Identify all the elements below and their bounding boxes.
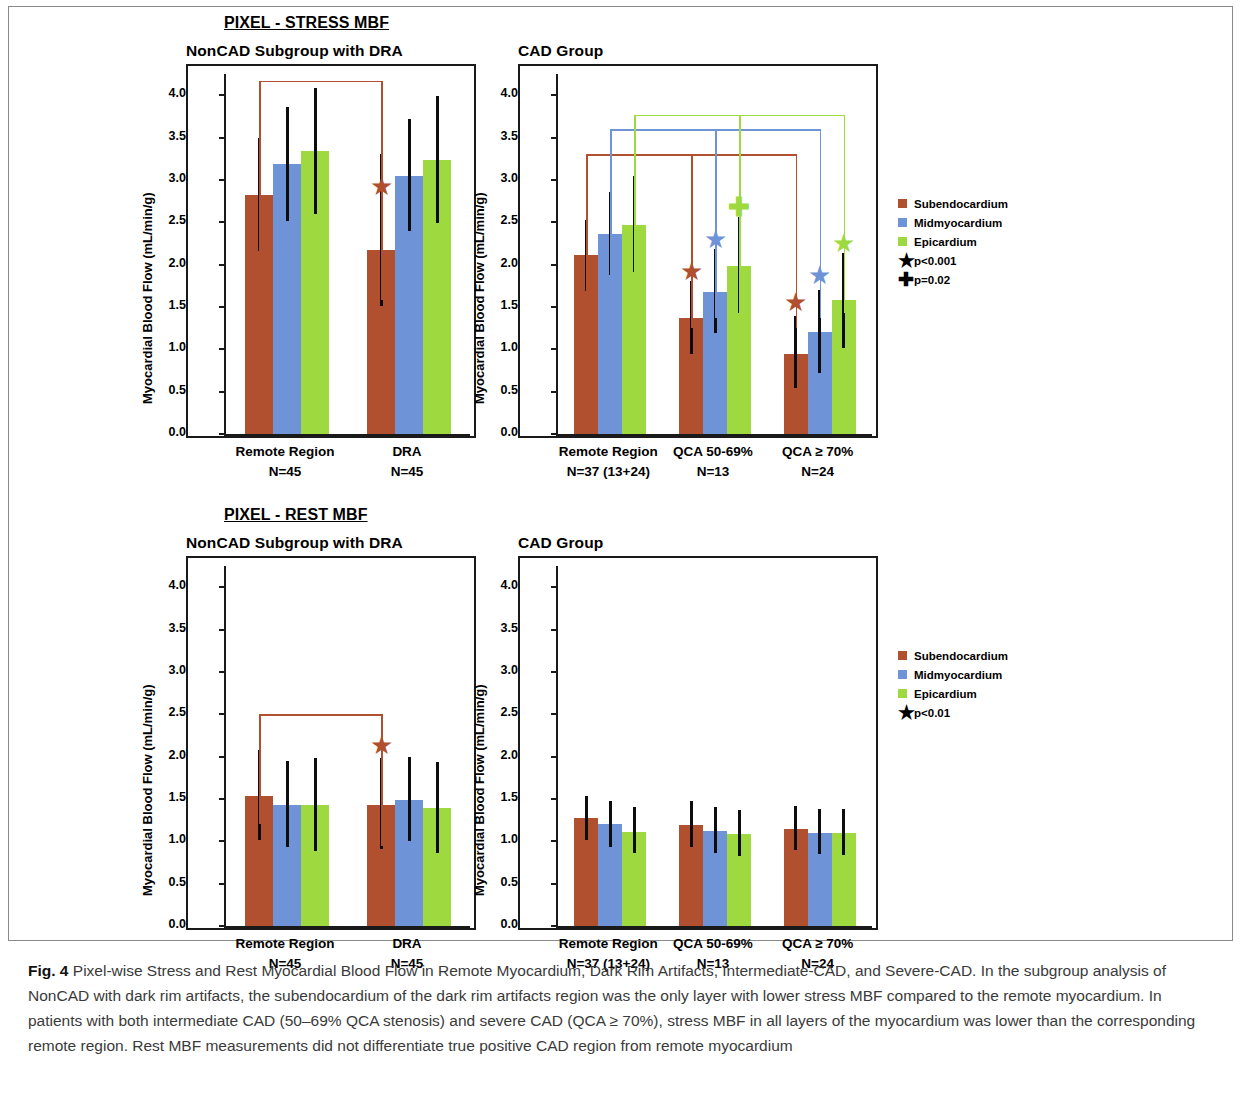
- x-category-label: DRA: [392, 444, 421, 459]
- error-bar: [714, 807, 717, 853]
- significance-star-icon: ★: [368, 173, 394, 199]
- y-tick-mark: [219, 840, 225, 842]
- y-tick-mark: [551, 391, 557, 393]
- y-tick-label: 4.0: [484, 578, 518, 592]
- y-tick-mark: [551, 925, 557, 927]
- error-bar: [818, 809, 821, 854]
- x-axis-line: [558, 434, 872, 436]
- legend-item: ★p<0.001: [898, 253, 1008, 268]
- significance-star-icon: ★: [368, 732, 394, 758]
- significance-plus-icon: ✚: [726, 194, 752, 220]
- x-category-label: Remote Region: [559, 444, 658, 459]
- section-heading-rest: PIXEL - REST MBF: [224, 506, 368, 524]
- y-tick-label: 3.0: [152, 171, 186, 185]
- y-tick-label: 3.5: [152, 621, 186, 635]
- x-category-group: QCA ≥ 70%N=24: [765, 444, 870, 479]
- y-axis-title: Myocardial Blood Flow (mL/min/g): [140, 684, 155, 896]
- chart-title-rest-noncad: NonCAD Subgroup with DRA: [186, 534, 403, 552]
- y-tick-mark: [219, 94, 225, 96]
- legend-label: Midmyocardium: [914, 217, 1002, 229]
- legend-item: Midmyocardium: [898, 215, 1008, 230]
- x-category-n: N=45: [346, 464, 468, 479]
- y-tick-mark: [219, 348, 225, 350]
- legend-label: Subendocardium: [914, 198, 1008, 210]
- significance-star-icon: ★: [783, 289, 809, 315]
- x-category-n: N=45: [224, 464, 346, 479]
- y-tick-label: 0.5: [152, 875, 186, 889]
- y-tick-mark: [219, 391, 225, 393]
- legend-label: p<0.01: [914, 707, 950, 719]
- legend-swatch-epicardium: [898, 237, 907, 246]
- y-tick-mark: [219, 264, 225, 266]
- x-category-label: QCA 50-69%: [673, 936, 753, 951]
- legend-swatch-midmyocardium: [898, 218, 907, 227]
- y-tick-label: 1.5: [152, 790, 186, 804]
- y-tick-label: 3.5: [152, 129, 186, 143]
- legend-label: Epicardium: [914, 236, 977, 248]
- x-category-label: Remote Region: [559, 936, 658, 951]
- y-tick-mark: [219, 179, 225, 181]
- y-axis-line: [556, 74, 558, 436]
- y-axis-line: [224, 74, 226, 436]
- y-tick-mark: [551, 798, 557, 800]
- error-bar: [408, 119, 411, 231]
- significance-star-icon: ★: [678, 258, 704, 284]
- y-tick-label: 2.5: [484, 705, 518, 719]
- x-category-label: QCA ≥ 70%: [782, 444, 853, 459]
- legend-label: p=0.02: [914, 274, 950, 286]
- y-tick-mark: [551, 671, 557, 673]
- y-axis-line: [224, 566, 226, 928]
- y-tick-mark: [551, 264, 557, 266]
- y-tick-label: 0.5: [484, 875, 518, 889]
- error-bar: [585, 796, 588, 840]
- legend-stress: SubendocardiumMidmyocardiumEpicardium★p<…: [898, 196, 1008, 291]
- legend-item: Subendocardium: [898, 648, 1008, 663]
- error-bar: [286, 107, 289, 221]
- y-tick-label: 1.5: [484, 298, 518, 312]
- significance-star-icon: ★: [702, 226, 728, 252]
- y-tick-label: 3.0: [484, 171, 518, 185]
- y-tick-mark: [551, 883, 557, 885]
- legend-star-icon: ★: [898, 708, 907, 717]
- figure-caption: Fig. 4 Pixel-wise Stress and Rest Myocar…: [28, 958, 1213, 1058]
- x-category-n: N=13: [661, 464, 766, 479]
- error-bar: [633, 807, 636, 853]
- y-tick-mark: [219, 629, 225, 631]
- error-bar: [408, 757, 411, 842]
- y-tick-mark: [551, 221, 557, 223]
- error-bar: [690, 801, 693, 847]
- y-tick-mark: [219, 925, 225, 927]
- y-tick-mark: [551, 433, 557, 435]
- caption-label: Fig. 4: [28, 962, 68, 979]
- legend-swatch-subendocardium: [898, 199, 907, 208]
- legend-label: p<0.001: [914, 255, 957, 267]
- legend-plus-icon: ✚: [898, 275, 907, 284]
- error-bar: [436, 762, 439, 853]
- legend-swatch-subendocardium: [898, 651, 907, 660]
- y-tick-mark: [551, 586, 557, 588]
- y-tick-label: 0.0: [484, 917, 518, 931]
- x-category-label: DRA: [392, 936, 421, 951]
- y-tick-label: 4.0: [152, 578, 186, 592]
- x-axis-line: [226, 926, 470, 928]
- y-tick-label: 0.0: [152, 425, 186, 439]
- y-tick-mark: [219, 798, 225, 800]
- y-tick-label: 2.0: [152, 748, 186, 762]
- y-tick-label: 1.0: [152, 832, 186, 846]
- x-category-n: N=24: [765, 464, 870, 479]
- y-tick-mark: [219, 883, 225, 885]
- y-tick-label: 0.0: [484, 425, 518, 439]
- y-axis-title: Myocardial Blood Flow (mL/min/g): [472, 192, 487, 404]
- chart-title-stress-noncad: NonCAD Subgroup with DRA: [186, 42, 403, 60]
- error-bar: [609, 801, 612, 848]
- chart-title-stress-cad: CAD Group: [518, 42, 603, 60]
- chart-stress-cad: ★★✚★★★: [518, 64, 878, 438]
- x-category-group: Remote RegionN=45: [224, 444, 346, 479]
- chart-stress-noncad: ★: [186, 64, 476, 438]
- y-tick-label: 3.0: [152, 663, 186, 677]
- legend-item: ✚p=0.02: [898, 272, 1008, 287]
- y-tick-label: 0.5: [484, 383, 518, 397]
- y-axis-title: Myocardial Blood Flow (mL/min/g): [140, 192, 155, 404]
- x-axis-line: [558, 926, 872, 928]
- y-tick-label: 2.0: [484, 256, 518, 270]
